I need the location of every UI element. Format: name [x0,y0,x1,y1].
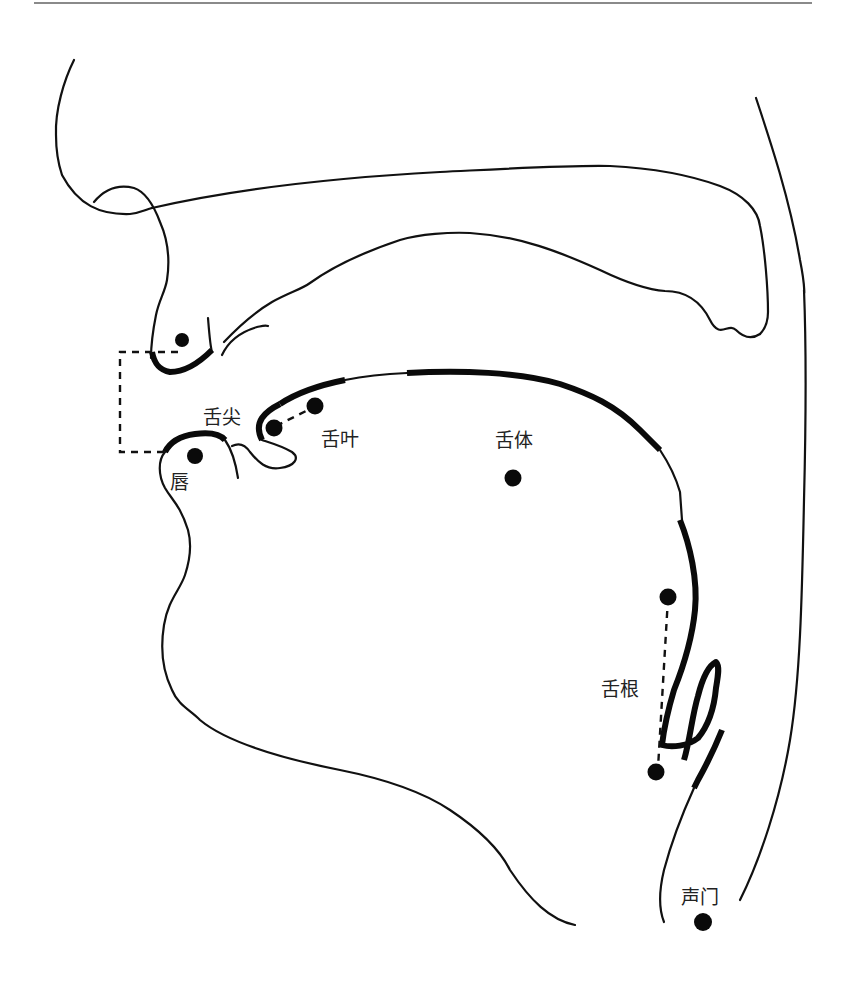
tongue-body-contour [407,372,660,450]
tongue-blade-thin [345,373,407,380]
tongue-root-upper-point [660,589,677,606]
alveolar-ridge-line [222,326,268,355]
palate-outline [224,233,760,342]
pharyngeal-wall [740,98,806,900]
tongue-tip-point [266,420,283,437]
label-tongue-blade: 舌叶 [321,430,359,449]
tongue-root-lower-point [648,764,665,781]
upper-incisor-line [208,318,212,352]
tongue-back-thin [660,450,682,520]
nasal-floor-line [152,166,768,334]
chin-outline [160,452,575,925]
label-glottis: 声门 [681,888,719,907]
vocal-tract-drawing [0,0,848,993]
label-lips: 唇 [170,473,189,492]
upper-lip-contact [152,350,212,372]
nose-outline [56,60,152,214]
upper-lip-point [175,333,189,347]
lips-connector [120,352,178,452]
tongue-underside [232,440,296,468]
tongue-root-contour [662,520,718,760]
vocal-tract-diagram: 舌尖 舌叶 舌体 唇 舌根 声门 [0,0,848,993]
label-tongue-body: 舌体 [495,431,533,450]
tongue-blade-point [307,398,324,415]
tongue-tip-blade-connector [276,408,312,426]
tongue-body-point [505,470,522,487]
label-tongue-root: 舌根 [601,680,639,699]
lower-lip-point [187,448,203,464]
label-tongue-tip: 舌尖 [203,408,241,427]
glottis-point [694,913,712,931]
